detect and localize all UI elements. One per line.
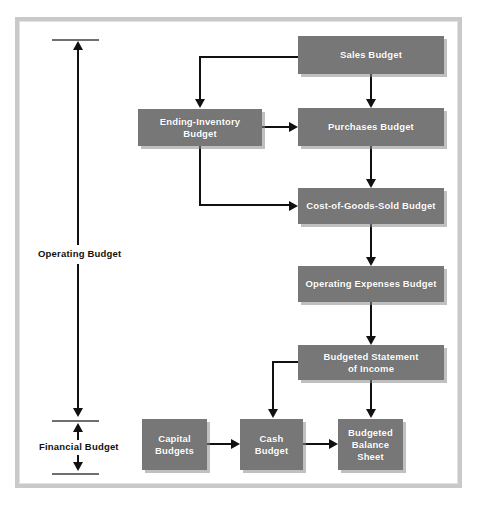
edge-sales-to-ending-inventory-vertical — [199, 56, 201, 100]
edge-sales-to-ending-inventory-horizontal — [199, 56, 299, 58]
edge-ending-inventory-to-cogs-vertical — [199, 146, 201, 206]
diagram-canvas: Operating Budget Financial Budget — [0, 0, 478, 506]
edge-ending-inventory-to-cogs-arrowhead — [289, 201, 298, 211]
node-budgeted-statement-of-income[interactable]: Budgeted Statement of Income — [298, 345, 444, 380]
edge-ending-inventory-to-purchases-arrowhead — [289, 122, 298, 132]
edge-income-to-balance-line — [370, 380, 372, 410]
node-ending-inventory-budget[interactable]: Ending-Inventory Budget — [138, 109, 262, 146]
operating-budget-label: Operating Budget — [38, 248, 121, 259]
node-cash-budget[interactable]: Cash Budget — [240, 419, 303, 470]
node-budgeted-statement-of-income-line2: of Income — [348, 363, 394, 374]
edge-purchases-to-cogs-arrowhead — [366, 179, 376, 188]
node-budgeted-balance-sheet-line2: Balance — [352, 439, 390, 450]
node-purchases-budget[interactable]: Purchases Budget — [298, 108, 444, 146]
edge-income-to-balance-arrowhead — [366, 409, 376, 418]
edge-sales-to-ending-inventory-arrowhead — [195, 99, 205, 108]
financial-budget-arrow-down — [73, 462, 83, 471]
financial-budget-label: Financial Budget — [39, 441, 119, 452]
node-cost-of-goods-sold-budget-label: Cost-of-Goods-Sold Budget — [306, 200, 435, 212]
node-cash-budget-line2: Budget — [255, 445, 289, 456]
edge-opex-to-income-arrowhead — [366, 336, 376, 345]
node-budgeted-balance-sheet-line3: Sheet — [357, 451, 384, 462]
node-cash-budget-line1: Cash — [260, 433, 284, 444]
node-budgeted-balance-sheet-label: Budgeted Balance Sheet — [348, 427, 393, 463]
node-capital-budgets-line2: Budgets — [155, 445, 194, 456]
operating-budget-arrow-down — [73, 408, 83, 417]
node-capital-budgets-label: Capital Budgets — [155, 433, 194, 457]
edge-cash-to-balance-arrowhead — [329, 439, 338, 449]
operating-budget-axis-upper — [77, 49, 79, 245]
node-capital-budgets[interactable]: Capital Budgets — [142, 419, 207, 470]
financial-budget-axis-upper — [77, 431, 79, 440]
node-budgeted-statement-of-income-label: Budgeted Statement of Income — [323, 351, 418, 375]
edge-ending-inventory-to-cogs-horizontal — [199, 204, 290, 206]
edge-income-to-cash-horizontal — [272, 361, 300, 363]
scale-tick-bottom — [52, 473, 99, 475]
node-sales-budget-label: Sales Budget — [340, 49, 402, 61]
edge-income-to-cash-vertical — [272, 361, 274, 410]
edge-capital-to-cash-arrowhead — [231, 439, 240, 449]
node-cost-of-goods-sold-budget[interactable]: Cost-of-Goods-Sold Budget — [298, 188, 444, 224]
edge-cogs-to-opex-arrowhead — [366, 257, 376, 266]
node-sales-budget[interactable]: Sales Budget — [298, 36, 444, 74]
edge-income-to-cash-arrowhead — [268, 409, 278, 418]
edge-cogs-to-opex-line — [370, 224, 372, 258]
node-operating-expenses-budget-label: Operating Expenses Budget — [306, 278, 437, 290]
node-purchases-budget-label: Purchases Budget — [328, 121, 414, 133]
edge-ending-inventory-to-purchases-line — [262, 126, 290, 128]
scale-tick-middle — [52, 420, 99, 422]
node-ending-inventory-budget-label: Ending-Inventory Budget — [160, 116, 241, 140]
node-ending-inventory-budget-line2: Budget — [183, 128, 217, 139]
node-capital-budgets-line1: Capital — [158, 433, 191, 444]
node-operating-expenses-budget[interactable]: Operating Expenses Budget — [298, 266, 444, 302]
edge-capital-to-cash-line — [207, 443, 232, 445]
edge-opex-to-income-line — [370, 302, 372, 337]
node-ending-inventory-budget-line1: Ending-Inventory — [160, 116, 241, 127]
node-budgeted-balance-sheet[interactable]: Budgeted Balance Sheet — [338, 419, 403, 470]
edge-sales-to-purchases-arrowhead — [366, 99, 376, 108]
node-budgeted-statement-of-income-line1: Budgeted Statement — [323, 351, 418, 362]
edge-purchases-to-cogs-line — [370, 146, 372, 180]
node-budgeted-balance-sheet-line1: Budgeted — [348, 427, 393, 438]
operating-budget-axis-lower — [77, 264, 79, 408]
edge-sales-to-purchases-line — [370, 74, 372, 100]
edge-cash-to-balance-line — [303, 443, 330, 445]
node-cash-budget-label: Cash Budget — [255, 433, 289, 457]
